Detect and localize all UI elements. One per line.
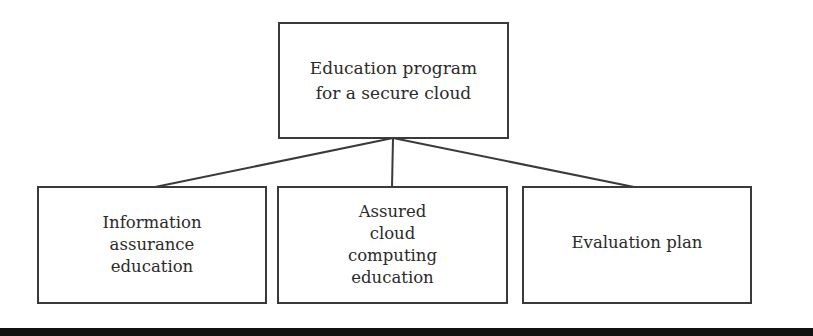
child-node-label: Assured cloud computing education [348, 201, 437, 289]
child-node-evaluation-plan: Evaluation plan [522, 186, 752, 304]
root-node-education-program: Education program for a secure cloud [278, 22, 509, 139]
child-node-assured-cloud-computing: Assured cloud computing education [277, 186, 508, 304]
root-node-label: Education program for a secure cloud [310, 56, 477, 106]
connector-root-to-evaluation-plan [393, 138, 634, 187]
child-node-label: Information assurance education [102, 212, 201, 278]
connector-root-to-assured-cloud [392, 138, 393, 187]
child-node-information-assurance: Information assurance education [37, 186, 267, 304]
connector-root-to-information-assurance [155, 138, 393, 187]
child-node-label: Evaluation plan [572, 232, 703, 254]
bottom-border-bar [0, 328, 813, 336]
